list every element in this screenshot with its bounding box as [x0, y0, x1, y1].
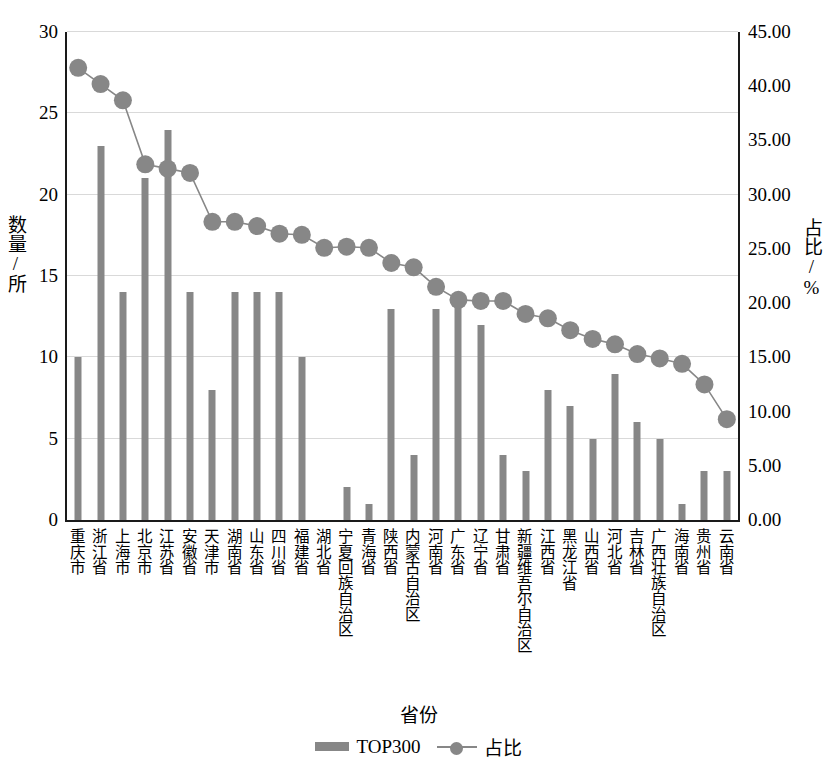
x-axis-category-label: 湖北省 [314, 528, 330, 575]
x-axis-category-label: 辽宁省 [471, 528, 487, 575]
x-axis-category-label: 陕西省 [382, 528, 398, 575]
line-marker [360, 239, 378, 257]
line-marker [651, 349, 669, 367]
x-axis-category-label: 山西省 [583, 528, 599, 575]
legend-item[interactable]: 占比 [437, 733, 522, 760]
line-marker [226, 213, 244, 231]
line-marker [539, 309, 557, 327]
line-marker [114, 91, 132, 109]
y-axis-left-tick-label: 20 [16, 185, 58, 204]
y-axis-right-tick-label: 15.00 [748, 347, 791, 366]
x-axis-category-label: 新疆维吾尔自治区 [516, 528, 532, 652]
x-axis-category-label: 湖南省 [225, 528, 241, 575]
line-marker [315, 239, 333, 257]
line-marker [718, 410, 736, 428]
line-marker [472, 292, 490, 310]
x-axis-category-label: 内蒙古自治区 [404, 528, 420, 621]
line-marker [382, 254, 400, 272]
x-axis-category-label: 广东省 [449, 528, 465, 575]
x-axis-category-label: 吉林省 [628, 528, 644, 575]
y-axis-right-tick-label: 20.00 [748, 293, 791, 312]
x-axis-category-label: 浙江省 [91, 528, 107, 575]
x-axis-category-label: 河北省 [605, 528, 621, 575]
line-marker [159, 160, 177, 178]
x-axis-category-label: 山东省 [247, 528, 263, 575]
x-axis-title: 省份 [0, 700, 837, 727]
plot-area [65, 32, 740, 522]
y-axis-left-tick-label: 10 [16, 347, 58, 366]
y-axis-left-tick-label: 15 [16, 266, 58, 285]
x-axis-category-label: 贵州省 [695, 528, 711, 575]
line-marker [136, 155, 154, 173]
line-marker [270, 225, 288, 243]
line-marker [695, 375, 713, 393]
x-axis-category-label: 甘肃省 [493, 528, 509, 575]
y-axis-right-tick-label: 25.00 [748, 239, 791, 258]
legend-label: 占比 [484, 733, 522, 760]
y-axis-right-tick-label: 10.00 [748, 402, 791, 421]
y-axis-left-tick-label: 30 [16, 22, 58, 41]
legend-line-swatch [437, 741, 477, 753]
y-axis-right-tick-label: 35.00 [748, 130, 791, 149]
x-axis-category-label: 天津市 [203, 528, 219, 575]
axis-line-bottom [65, 520, 740, 522]
chart-root: 数量/所 占比/% 051015202530 0.005.0010.0015.0… [0, 0, 837, 767]
line-marker [673, 355, 691, 373]
x-axis-category-label: 福建省 [292, 528, 308, 575]
y-axis-right-tick-label: 30.00 [748, 185, 791, 204]
legend-label: TOP300 [356, 736, 420, 758]
line-marker [449, 291, 467, 309]
line-series-share [67, 32, 738, 520]
x-axis-category-label: 云南省 [717, 528, 733, 575]
line-marker [405, 258, 423, 276]
line-marker [338, 238, 356, 256]
line-marker [494, 292, 512, 310]
x-axis-category-label: 江西省 [538, 528, 554, 575]
line-marker [181, 164, 199, 182]
x-axis-category-label: 安徽省 [180, 528, 196, 575]
line-series-svg [67, 32, 738, 520]
y-axis-right-tick-label: 0.00 [748, 510, 781, 529]
line-marker [561, 321, 579, 339]
line-marker [584, 330, 602, 348]
legend-marker-dot-icon [450, 742, 463, 755]
line-marker [293, 226, 311, 244]
line-marker [606, 335, 624, 353]
axis-line-right [738, 32, 740, 522]
line-marker [517, 305, 535, 323]
x-axis-category-label: 上海市 [113, 528, 129, 575]
line-marker [92, 75, 110, 93]
x-axis-category-label: 重庆市 [68, 528, 84, 575]
line-marker [248, 217, 266, 235]
x-axis-category-label: 宁夏回族自治区 [337, 528, 353, 637]
x-axis-category-label: 北京市 [136, 528, 152, 575]
y-axis-left-tick-label: 0 [16, 510, 58, 529]
x-axis-category-label: 黑龙江省 [561, 528, 577, 590]
x-axis-category-label: 广西壮族自治区 [650, 528, 666, 637]
y-axis-left-tick-label: 25 [16, 103, 58, 122]
y-axis-left-tick-label: 5 [16, 429, 58, 448]
line-marker [427, 278, 445, 296]
x-axis-category-labels: 重庆市浙江省上海市北京市江苏省安徽省天津市湖南省山东省四川省福建省湖北省宁夏回族… [65, 528, 740, 698]
x-axis-category-label: 四川省 [270, 528, 286, 575]
chart-legend: TOP300占比 [0, 733, 837, 760]
y-axis-right-ticks: 0.005.0010.0015.0020.0025.0030.0035.0040… [748, 32, 828, 522]
line-marker [203, 213, 221, 231]
x-axis-category-label: 海南省 [672, 528, 688, 575]
y-axis-right-tick-label: 45.00 [748, 22, 791, 41]
line-marker [69, 59, 87, 77]
y-axis-right-tick-label: 40.00 [748, 76, 791, 95]
x-axis-category-label: 青海省 [359, 528, 375, 575]
line-path [78, 68, 727, 419]
x-axis-category-label: 江苏省 [158, 528, 174, 575]
legend-bar-swatch [315, 742, 349, 751]
y-axis-left-ticks: 051015202530 [8, 32, 58, 522]
y-axis-right-tick-label: 5.00 [748, 456, 781, 475]
x-axis-category-label: 河南省 [426, 528, 442, 575]
line-marker [628, 345, 646, 363]
legend-item[interactable]: TOP300 [315, 736, 420, 758]
